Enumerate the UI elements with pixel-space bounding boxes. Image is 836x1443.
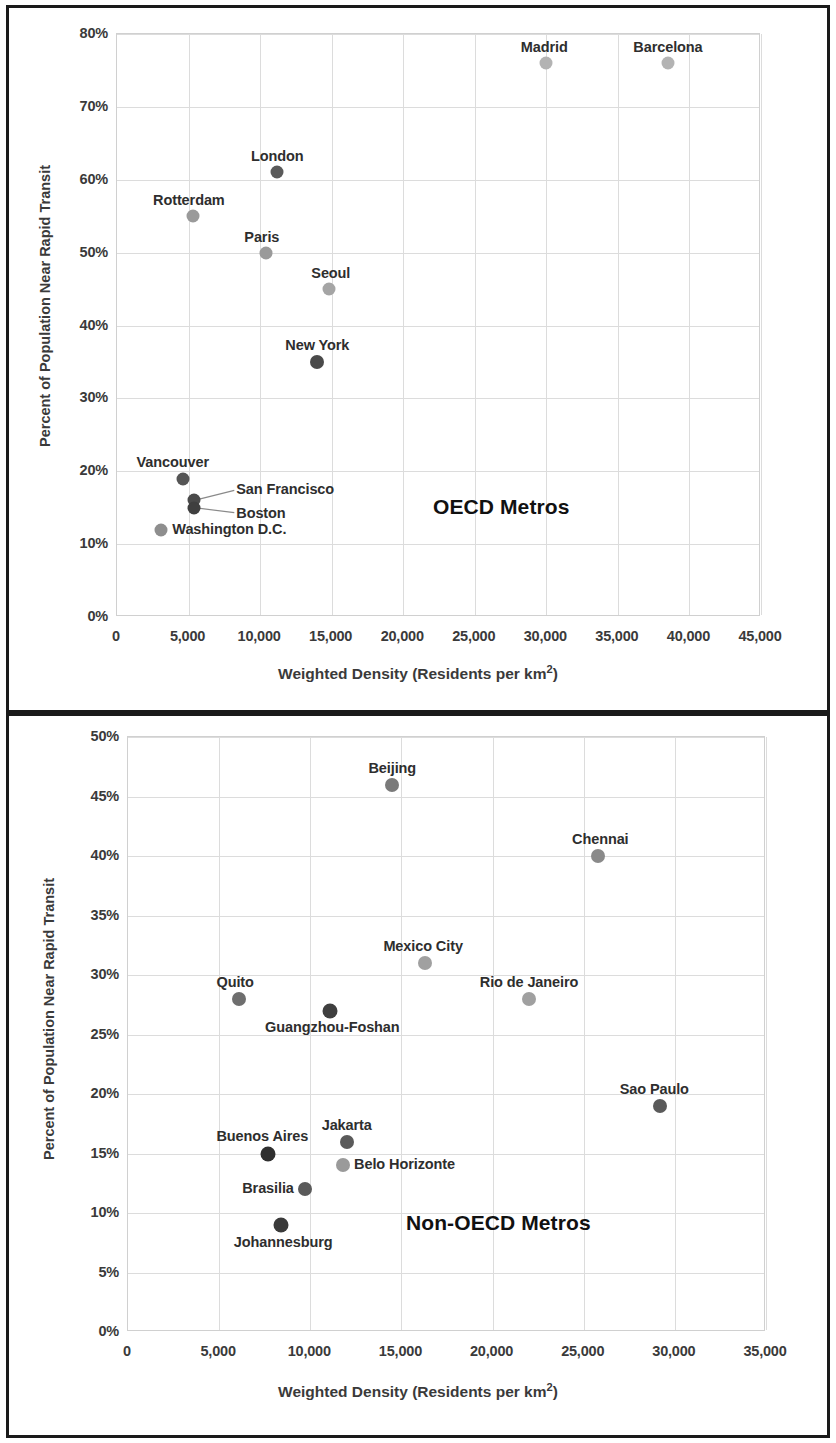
data-point-label: New York	[285, 337, 349, 353]
chart-group-label: Non-OECD Metros	[406, 1211, 591, 1235]
data-point[interactable]	[522, 992, 536, 1006]
data-point[interactable]	[155, 523, 168, 536]
data-point[interactable]	[653, 1099, 667, 1113]
x-axis-tick-label: 30,000	[524, 628, 567, 644]
gridline-vertical	[675, 737, 676, 1330]
data-point-label: Beijing	[368, 760, 416, 776]
data-point-label: Buenos Aires	[216, 1128, 308, 1144]
gridline-horizontal	[128, 856, 764, 857]
scatter-chart-oecd: MadridBarcelonaLondonRotterdamParisSeoul…	[9, 8, 827, 710]
x-axis-tick-label: 35,000	[743, 1343, 786, 1359]
data-point[interactable]	[540, 57, 553, 70]
data-point[interactable]	[323, 1003, 338, 1018]
gridline-vertical	[403, 34, 404, 615]
y-axis-tick-label: 0%	[28, 608, 108, 624]
x-axis-tick-label: 5,000	[200, 1343, 235, 1359]
data-point-label: Quito	[217, 974, 254, 990]
data-point-label: Guangzhou-Foshan	[265, 1019, 400, 1035]
gridline-horizontal	[128, 797, 764, 798]
gridline-horizontal	[117, 471, 759, 472]
figure-root: MadridBarcelonaLondonRotterdamParisSeoul…	[0, 0, 836, 1443]
gridline-horizontal	[117, 398, 759, 399]
data-point-label: San Francisco	[236, 481, 334, 497]
x-axis-title: Weighted Density (Residents per km2)	[9, 1381, 827, 1401]
data-point[interactable]	[385, 778, 399, 792]
data-point-label: Mexico City	[383, 938, 462, 954]
gridline-horizontal	[128, 1273, 764, 1274]
data-point[interactable]	[591, 849, 605, 863]
chart-panel-oecd: MadridBarcelonaLondonRotterdamParisSeoul…	[6, 5, 830, 713]
data-point[interactable]	[259, 246, 272, 259]
x-axis-tick-label: 20,000	[470, 1343, 513, 1359]
data-point[interactable]	[176, 472, 189, 485]
y-axis-tick-label: 50%	[39, 728, 119, 744]
data-point[interactable]	[336, 1158, 350, 1172]
data-point[interactable]	[310, 355, 324, 369]
y-axis-tick-label: 80%	[28, 25, 108, 41]
x-axis-tick-label: 5,000	[170, 628, 205, 644]
gridline-horizontal	[117, 544, 759, 545]
data-point[interactable]	[188, 501, 201, 514]
scatter-chart-non-oecd: BeijingChennaiMexico CityRio de JaneiroQ…	[9, 716, 827, 1435]
x-axis-tick-label: 0	[112, 628, 120, 644]
data-point[interactable]	[274, 1217, 289, 1232]
x-axis-tick-label: 15,000	[309, 628, 352, 644]
gridline-vertical	[761, 34, 762, 615]
gridline-horizontal	[117, 326, 759, 327]
data-point[interactable]	[186, 210, 199, 223]
data-point-label: London	[251, 148, 304, 164]
data-point[interactable]	[271, 166, 284, 179]
data-point[interactable]	[298, 1182, 312, 1196]
data-point[interactable]	[418, 956, 432, 970]
data-point-label: Jakarta	[322, 1117, 372, 1133]
data-point-label: Paris	[244, 229, 279, 245]
data-point-label: Johannesburg	[234, 1234, 333, 1250]
data-point-label: Seoul	[311, 265, 350, 281]
y-axis-tick-label: 5%	[39, 1264, 119, 1280]
x-axis-tick-label: 10,000	[288, 1343, 331, 1359]
data-point-label: Barcelona	[633, 39, 702, 55]
y-axis-tick-label: 0%	[39, 1323, 119, 1339]
data-point-label: Chennai	[572, 831, 629, 847]
gridline-vertical	[401, 737, 402, 1330]
data-point[interactable]	[661, 57, 674, 70]
x-axis-tick-label: 10,000	[238, 628, 281, 644]
y-axis-tick-label: 10%	[28, 535, 108, 551]
plot-area: BeijingChennaiMexico CityRio de JaneiroQ…	[127, 736, 765, 1331]
x-axis-tick-label: 20,000	[381, 628, 424, 644]
data-point-label: Brasilia	[242, 1180, 294, 1196]
x-axis-tick-label: 25,000	[452, 628, 495, 644]
y-axis-tick-label: 70%	[28, 98, 108, 114]
gridline-horizontal	[117, 180, 759, 181]
gridline-vertical	[332, 34, 333, 615]
gridline-horizontal	[117, 253, 759, 254]
x-axis-tick-label: 0	[123, 1343, 131, 1359]
data-point[interactable]	[232, 992, 246, 1006]
gridline-horizontal	[128, 1154, 764, 1155]
data-point-label: Vancouver	[137, 454, 209, 470]
gridline-vertical	[618, 34, 619, 615]
gridline-vertical	[493, 737, 494, 1330]
chart-panel-non-oecd: BeijingChennaiMexico CityRio de JaneiroQ…	[6, 713, 830, 1438]
x-axis-tick-label: 15,000	[379, 1343, 422, 1359]
gridline-vertical	[475, 34, 476, 615]
data-point[interactable]	[340, 1135, 354, 1149]
gridline-vertical	[584, 737, 585, 1330]
data-point[interactable]	[261, 1146, 276, 1161]
x-axis-tick-label: 35,000	[595, 628, 638, 644]
plot-area: MadridBarcelonaLondonRotterdamParisSeoul…	[116, 33, 760, 616]
gridline-vertical	[766, 737, 767, 1330]
y-axis-tick-label: 10%	[39, 1204, 119, 1220]
data-point-label: Madrid	[521, 39, 568, 55]
gridline-vertical	[689, 34, 690, 615]
data-point-label: Washington D.C.	[172, 521, 286, 537]
y-axis-title: Percent of Population Near Rapid Transit	[41, 849, 57, 1189]
data-point-label: Rotterdam	[153, 192, 225, 208]
data-point[interactable]	[322, 283, 335, 296]
gridline-horizontal	[117, 34, 759, 35]
x-axis-tick-label: 25,000	[561, 1343, 604, 1359]
data-point-label: Boston	[236, 505, 285, 521]
gridline-vertical	[219, 737, 220, 1330]
chart-group-label: OECD Metros	[433, 495, 569, 519]
gridline-horizontal	[128, 1035, 764, 1036]
